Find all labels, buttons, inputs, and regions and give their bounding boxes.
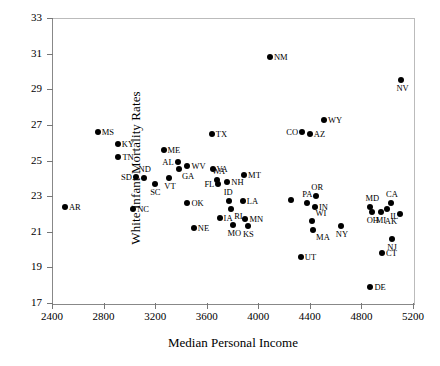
y-tick-mark: [47, 89, 53, 90]
data-point-marker: [62, 204, 68, 210]
data-point-marker: [321, 117, 327, 123]
data-point-label: MN: [249, 215, 263, 224]
data-point-marker: [288, 197, 294, 203]
y-tick-label: 19: [10, 261, 42, 272]
x-tick-mark: [207, 303, 208, 309]
x-axis-title: Median Personal Income: [52, 335, 414, 351]
data-point-label: MA: [316, 233, 330, 242]
data-point-label: IN: [319, 203, 328, 212]
x-tick-mark: [361, 303, 362, 309]
data-point-label: WV: [191, 162, 205, 171]
data-point-label: SC: [150, 188, 160, 197]
data-point-label: LA: [247, 197, 258, 206]
data-point-label: NE: [198, 224, 209, 233]
x-tick-label: 5200: [390, 311, 436, 322]
data-point-label: AZ: [314, 130, 325, 139]
data-point-label: UT: [305, 253, 316, 262]
data-point-marker: [133, 174, 139, 180]
data-point-marker: [191, 225, 197, 231]
y-tick-mark: [47, 125, 53, 126]
x-tick-mark: [52, 303, 53, 309]
data-point-marker: [307, 131, 313, 137]
x-tick-mark: [413, 303, 414, 309]
data-point-label: DE: [374, 283, 385, 292]
data-point-marker: [397, 211, 403, 217]
data-point-label: ME: [168, 146, 181, 155]
data-point-label: OK: [191, 199, 203, 208]
y-tick-mark: [47, 18, 53, 19]
data-point-label: AR: [69, 203, 81, 212]
data-point-label: FL: [204, 180, 214, 189]
y-tick-label: 25: [10, 155, 42, 166]
y-tick-label: 31: [10, 48, 42, 59]
x-tick-mark: [155, 303, 156, 309]
data-point-label: OR: [311, 183, 323, 192]
data-point-label: MD: [365, 194, 379, 203]
data-point-marker: [298, 254, 304, 260]
x-tick-label: 2800: [81, 311, 127, 322]
data-point-label: AK: [385, 217, 397, 226]
data-point-label: WA: [212, 167, 225, 176]
data-point-marker: [217, 215, 223, 221]
data-point-marker: [161, 147, 167, 153]
data-point-label: NM: [274, 53, 288, 62]
data-point-label: WY: [328, 116, 342, 125]
y-tick-label: 23: [10, 190, 42, 201]
y-tick-label: 27: [10, 119, 42, 130]
x-tick-label: 3200: [132, 311, 178, 322]
data-point-label: ID: [224, 188, 233, 197]
y-tick-mark: [47, 232, 53, 233]
data-point-label: MO: [228, 229, 242, 238]
data-point-marker: [241, 172, 247, 178]
data-point-marker: [141, 175, 147, 181]
y-tick-label: 21: [10, 226, 42, 237]
data-point-label: KY: [122, 140, 134, 149]
data-point-label: SD: [121, 173, 132, 182]
data-point-label: KS: [243, 230, 254, 239]
y-tick-mark: [47, 161, 53, 162]
data-point-marker: [175, 159, 181, 165]
data-point-label: NJ: [387, 243, 396, 252]
data-point-label: AL: [162, 158, 173, 167]
x-tick-label: 4000: [235, 311, 281, 322]
x-tick-mark: [104, 303, 105, 309]
data-point-marker: [215, 181, 221, 187]
data-point-marker: [230, 222, 236, 228]
data-point-label: CO: [286, 128, 298, 137]
y-tick-label: 29: [10, 83, 42, 94]
y-tick-label: 33: [10, 12, 42, 23]
scatter-chart: White Infant Mortality Rates 17192123252…: [0, 0, 440, 366]
x-tick-label: 3600: [184, 311, 230, 322]
y-tick-mark: [47, 267, 53, 268]
x-tick-mark: [258, 303, 259, 309]
data-point-label: NC: [137, 205, 149, 214]
x-tick-label: 4800: [338, 311, 384, 322]
data-point-marker: [209, 131, 215, 137]
data-point-marker: [312, 204, 318, 210]
data-point-label: MS: [102, 128, 114, 137]
data-point-label: MT: [248, 171, 261, 180]
x-tick-label: 2400: [29, 311, 75, 322]
data-point-label: NH: [231, 178, 243, 187]
y-tick-label: 17: [10, 297, 42, 308]
x-tick-label: 4400: [287, 311, 333, 322]
data-point-marker: [95, 129, 101, 135]
data-point-label: NY: [336, 230, 348, 239]
x-tick-mark: [310, 303, 311, 309]
data-point-label: TX: [216, 130, 227, 139]
data-point-marker: [130, 206, 136, 212]
data-point-label: NV: [396, 84, 408, 93]
data-point-label: ND: [139, 165, 151, 174]
data-point-label: TN: [122, 153, 133, 162]
y-tick-mark: [47, 54, 53, 55]
y-tick-mark: [47, 196, 53, 197]
data-point-label: VT: [164, 182, 175, 191]
data-point-marker: [152, 181, 158, 187]
data-point-label: GA: [182, 172, 194, 181]
plot-area: [52, 18, 415, 305]
data-point-label: CA: [386, 190, 398, 199]
